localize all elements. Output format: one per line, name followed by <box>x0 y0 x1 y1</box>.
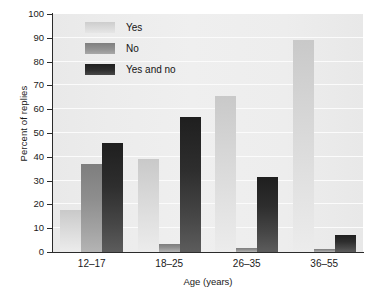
legend-swatch <box>85 43 115 54</box>
y-tick-mark <box>47 252 52 253</box>
bar-chart: Percent of replies 010203040506070809010… <box>0 0 371 300</box>
y-tick-mark <box>47 181 52 182</box>
y-tick-mark <box>47 14 52 15</box>
y-tick-label: 30 <box>16 176 44 186</box>
y-tick-mark <box>47 157 52 158</box>
bar <box>335 235 356 252</box>
y-tick-label: 80 <box>16 57 44 67</box>
bar <box>102 143 123 252</box>
bar <box>257 177 278 252</box>
bar <box>293 40 314 252</box>
legend-label: Yes <box>126 22 142 33</box>
y-tick-mark <box>47 204 52 205</box>
y-tick-mark <box>47 38 52 39</box>
y-tick-label: 0 <box>16 247 44 257</box>
x-axis-line <box>52 252 364 253</box>
legend-swatch <box>85 22 115 33</box>
y-tick-label: 90 <box>16 33 44 43</box>
legend-label: No <box>126 43 139 54</box>
gridline <box>53 156 363 157</box>
y-tick-mark <box>47 85 52 86</box>
x-axis-title: Age (years) <box>53 276 363 287</box>
x-tick-label: 12–17 <box>57 258 127 269</box>
y-tick-label: 60 <box>16 104 44 114</box>
gridline <box>53 84 363 85</box>
bar <box>180 117 201 252</box>
gridline <box>53 108 363 109</box>
y-tick-mark <box>47 228 52 229</box>
bar <box>81 164 102 252</box>
x-tick-label: 18–25 <box>134 258 204 269</box>
x-tick-label: 26–35 <box>212 258 282 269</box>
y-tick-label: 70 <box>16 80 44 90</box>
y-tick-label: 40 <box>16 152 44 162</box>
x-tick-label: 36–55 <box>289 258 359 269</box>
y-tick-label: 100 <box>16 9 44 19</box>
y-tick-label: 10 <box>16 223 44 233</box>
legend-item: Yes <box>85 19 176 36</box>
y-tick-mark <box>47 133 52 134</box>
y-tick-mark <box>47 109 52 110</box>
legend: YesNoYes and no <box>85 19 176 82</box>
bar <box>60 210 81 252</box>
legend-item: Yes and no <box>85 61 176 78</box>
bar <box>215 96 236 252</box>
legend-swatch <box>85 64 115 75</box>
gridline <box>53 132 363 133</box>
y-tick-label: 20 <box>16 199 44 209</box>
legend-label: Yes and no <box>126 64 176 75</box>
bar <box>159 244 180 252</box>
y-tick-mark <box>47 62 52 63</box>
y-axis-line <box>52 13 53 253</box>
legend-item: No <box>85 40 176 57</box>
bar <box>138 159 159 252</box>
y-tick-label: 50 <box>16 128 44 138</box>
